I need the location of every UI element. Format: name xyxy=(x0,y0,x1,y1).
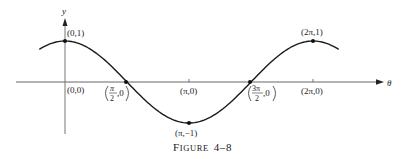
svg-text:2: 2 xyxy=(255,94,259,103)
label-pi-neg1: (π,−1) xyxy=(175,128,197,138)
label-pi-half-0: π 2 ,0 xyxy=(106,84,129,103)
left-paren-icon xyxy=(106,86,109,101)
svg-text:,0: ,0 xyxy=(263,88,270,98)
label-0-0: (0,0) xyxy=(67,85,84,95)
point-2pi-1 xyxy=(311,39,315,43)
cosine-figure: θ y (0,1) (0,0) π 2 ,0 (π,0) (π,−1) xyxy=(0,0,401,159)
svg-text:π: π xyxy=(110,84,115,93)
label-0-1: (0,1) xyxy=(67,28,84,38)
label-pi-0: (π,0) xyxy=(180,86,197,96)
figure-caption: FIGURE4–8 xyxy=(173,141,232,153)
x-axis-arrow-icon xyxy=(376,79,384,84)
plot-canvas: θ y (0,1) (0,0) π 2 ,0 (π,0) (π,−1) xyxy=(0,0,401,159)
label-3pi-half-0: 3π 2 ,0 xyxy=(249,84,276,103)
point-pi-neg1 xyxy=(187,121,191,125)
x-axis-label: θ xyxy=(387,78,392,88)
point-0-1 xyxy=(63,39,67,43)
svg-text:,0: ,0 xyxy=(117,88,124,98)
svg-text:3π: 3π xyxy=(252,84,260,93)
right-paren-icon xyxy=(273,86,276,101)
label-2pi-0: (2π,0) xyxy=(301,86,323,96)
left-paren-icon xyxy=(249,86,252,101)
label-2pi-1: (2π,1) xyxy=(301,27,323,37)
right-paren-icon xyxy=(126,86,129,101)
svg-text:2: 2 xyxy=(110,94,114,103)
y-axis-label: y xyxy=(61,6,66,16)
y-axis-arrow-icon xyxy=(63,18,68,26)
point-pi-half-0 xyxy=(124,80,128,84)
